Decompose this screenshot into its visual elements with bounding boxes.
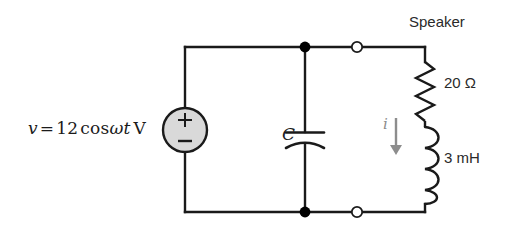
inductor-symbol bbox=[425, 127, 439, 204]
inductor-value-label: 3 mH bbox=[444, 150, 480, 165]
source-omega: ω bbox=[109, 118, 123, 138]
source-equation-label: v=12cosωtV bbox=[28, 120, 146, 137]
source-amplitude: 12 bbox=[56, 118, 78, 138]
circuit-diagram-figure: v=12cosωtV C Speaker 20 Ω 3 mH i bbox=[0, 0, 511, 235]
current-arrow-head bbox=[390, 145, 402, 155]
speaker-label: Speaker bbox=[409, 14, 465, 29]
source-time: t bbox=[123, 118, 130, 138]
node-bottom bbox=[300, 207, 311, 218]
current-arrow-icon bbox=[390, 118, 402, 155]
source-unit: V bbox=[131, 118, 146, 138]
node-top bbox=[300, 42, 311, 53]
resistor-symbol bbox=[416, 62, 434, 127]
capacitor-label: C bbox=[282, 126, 295, 143]
resistor-zigzag bbox=[416, 62, 434, 121]
open-terminal-top bbox=[352, 42, 362, 52]
inductor-coils bbox=[425, 127, 439, 204]
current-label: i bbox=[383, 117, 388, 132]
source-function: cos bbox=[78, 118, 109, 138]
source-equals: = bbox=[38, 118, 56, 138]
source-variable: v bbox=[28, 118, 38, 138]
open-terminal-bottom bbox=[352, 207, 362, 217]
resistor-value-label: 20 Ω bbox=[444, 75, 476, 90]
wire-group bbox=[185, 47, 425, 212]
voltage-source-symbol bbox=[163, 108, 207, 152]
